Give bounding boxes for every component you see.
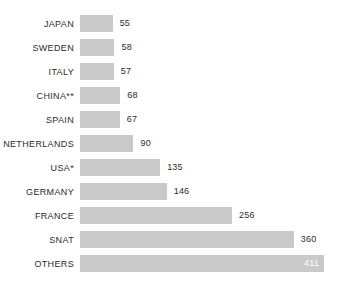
- bar-value-label: 68: [127, 90, 137, 101]
- bar-track: 58: [80, 36, 344, 60]
- category-label: ITALY: [0, 67, 80, 78]
- bar: [80, 111, 120, 128]
- category-label: NETHERLANDS: [0, 139, 80, 150]
- bar-value-label: 58: [121, 42, 131, 53]
- bar-value-label: 90: [140, 138, 150, 149]
- category-label: USA*: [0, 163, 80, 174]
- bar-row: JAPAN55: [0, 12, 344, 36]
- bar-row: ITALY57: [0, 60, 344, 84]
- bar: [80, 87, 120, 104]
- bar: [80, 183, 167, 200]
- category-label: FRANCE: [0, 211, 80, 222]
- bar: [80, 15, 113, 32]
- bar: [80, 135, 133, 152]
- bar-row: OTHERS411: [0, 252, 344, 276]
- category-label: CHINA**: [0, 91, 80, 102]
- bar-value-label: 360: [301, 234, 317, 245]
- bar-row: SPAIN67: [0, 108, 344, 132]
- bar: [80, 207, 232, 224]
- bar-value-label: 411: [304, 258, 319, 269]
- bar: [80, 159, 160, 176]
- bar-value-label: 256: [239, 210, 255, 221]
- bar-value-label: 67: [127, 114, 137, 125]
- category-label: SNAT: [0, 235, 80, 246]
- bar-track: 135: [80, 156, 344, 180]
- bar: [80, 255, 324, 272]
- bar-track: 57: [80, 60, 344, 84]
- bar-value-label: 135: [167, 162, 183, 173]
- bar-track: 360: [80, 228, 344, 252]
- category-label: OTHERS: [0, 259, 80, 270]
- bar-row: NETHERLANDS90: [0, 132, 344, 156]
- bar: [80, 231, 294, 248]
- bar-row: USA*135: [0, 156, 344, 180]
- bar-row: FRANCE256: [0, 204, 344, 228]
- bar-track: 55: [80, 12, 344, 36]
- bar: [80, 63, 114, 80]
- bar-track: 67: [80, 108, 344, 132]
- bar-value-label: 55: [120, 18, 130, 29]
- bar-track: 90: [80, 132, 344, 156]
- bar-row: SWEDEN58: [0, 36, 344, 60]
- bar-value-label: 146: [174, 186, 190, 197]
- bar-row: GERMANY146: [0, 180, 344, 204]
- category-label: JAPAN: [0, 19, 80, 30]
- bar-row: CHINA**68: [0, 84, 344, 108]
- bar-track: 146: [80, 180, 344, 204]
- bar-track: 68: [80, 84, 344, 108]
- category-label: SPAIN: [0, 115, 80, 126]
- bar-value-label: 57: [121, 66, 131, 77]
- horizontal-bar-chart: JAPAN55SWEDEN58ITALY57CHINA**68SPAIN67NE…: [0, 0, 344, 294]
- bar-row: SNAT360: [0, 228, 344, 252]
- bar: [80, 39, 114, 56]
- category-label: GERMANY: [0, 187, 80, 198]
- bar-track: 256: [80, 204, 344, 228]
- bar-track: 411: [80, 252, 344, 276]
- category-label: SWEDEN: [0, 43, 80, 54]
